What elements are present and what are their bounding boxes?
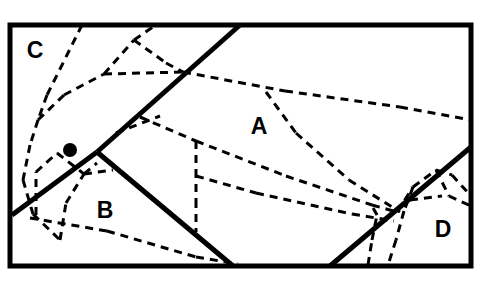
region-label-d: D <box>435 216 452 242</box>
diagram-canvas: CABD <box>0 0 486 285</box>
point-marker <box>63 143 77 157</box>
partition-diagram: CABD <box>0 0 486 285</box>
region-label-b: B <box>97 197 114 223</box>
point-marker-layer <box>63 143 77 157</box>
region-label-a: A <box>251 113 268 139</box>
region-label-c: C <box>27 37 44 63</box>
